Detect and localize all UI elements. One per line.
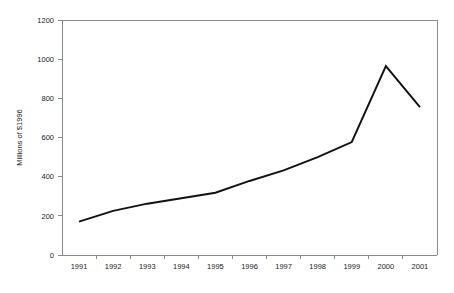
x-tick-label: 1994 [173,262,190,271]
x-tick-label: 1997 [275,262,292,271]
x-tick-label: 1993 [139,262,156,271]
y-tick-label: 0 [50,251,54,260]
x-tick-label: 2000 [378,262,395,271]
line-chart: 0200400600800100012001991199219931994199… [0,0,454,293]
x-tick-label: 2001 [412,262,429,271]
y-tick-label: 600 [41,133,54,142]
y-tick-label: 1000 [37,55,54,64]
y-tick-label: 400 [41,172,54,181]
y-tick-label: 1200 [37,16,54,25]
x-tick-label: 1998 [309,262,326,271]
x-tick-label: 1996 [241,262,258,271]
chart-figure: 0200400600800100012001991199219931994199… [0,0,454,293]
y-tick-label: 800 [41,94,54,103]
y-tick-label: 200 [41,212,54,221]
data-series-line [79,66,420,222]
x-tick-label: 1992 [105,262,122,271]
x-tick-label: 1999 [343,262,360,271]
y-axis-title: Millions of $1996 [15,109,24,165]
x-tick-label: 1995 [207,262,224,271]
x-tick-label: 1991 [71,262,88,271]
